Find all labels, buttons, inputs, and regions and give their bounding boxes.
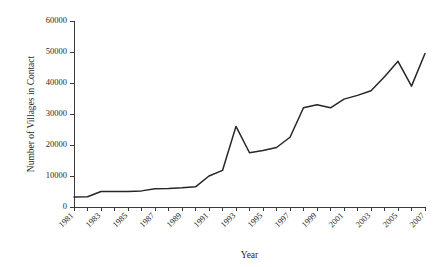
- line-chart-canvas: 0100002000030000400005000060000198119831…: [0, 0, 448, 267]
- y-axis-tick-label: 20000: [46, 139, 67, 149]
- x-axis-tick-label: 2003: [353, 210, 372, 229]
- x-axis-tick-label: 2001: [326, 210, 345, 229]
- x-axis-tick-label: 1993: [218, 210, 237, 229]
- y-axis-tick-label: 40000: [46, 77, 67, 87]
- x-axis-tick-label: 1995: [245, 210, 264, 229]
- x-axis-tick-label: 1999: [299, 210, 318, 229]
- x-axis-tick-label: 2007: [407, 210, 426, 229]
- x-axis-tick-label: 1997: [272, 210, 291, 229]
- y-axis-tick-label: 30000: [46, 108, 67, 118]
- x-axis-tick-label: 1991: [191, 210, 210, 229]
- y-axis-tick-label: 50000: [46, 46, 67, 56]
- x-axis-title: Year: [241, 250, 259, 260]
- y-axis-title: Number of Villages in Contact: [26, 55, 36, 172]
- chart-figure: 0100002000030000400005000060000198119831…: [0, 0, 448, 267]
- x-axis-tick-label: 2005: [380, 210, 399, 229]
- x-axis-tick-label: 1985: [110, 210, 129, 229]
- data-series-line: [74, 54, 425, 198]
- y-axis-tick-label: 60000: [46, 15, 67, 25]
- y-axis-tick-label: 0: [63, 201, 67, 211]
- y-axis-tick-label: 10000: [46, 170, 67, 180]
- x-axis-tick-label: 1983: [83, 210, 102, 229]
- x-axis-tick-label: 1989: [164, 210, 183, 229]
- plot-area: 0100002000030000400005000060000198119831…: [26, 15, 426, 260]
- x-axis-tick-label: 1981: [56, 210, 75, 229]
- x-axis-tick-label: 1987: [137, 210, 156, 229]
